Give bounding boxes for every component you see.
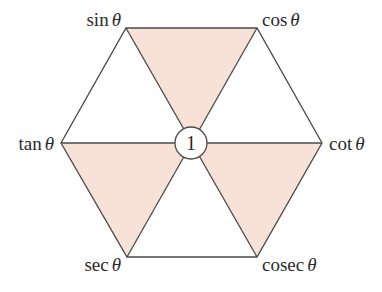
label-sin: sinθ — [86, 9, 121, 30]
shaded-triangle-bottom-left — [61, 143, 191, 257]
label-sec: secθ — [84, 254, 121, 275]
label-tan: tanθ — [18, 133, 54, 154]
shaded-triangle-top — [126, 28, 257, 143]
center-label: 1 — [186, 132, 196, 154]
shaded-triangle-bottom-right — [191, 143, 322, 257]
trig-hexagon-diagram: 1 sinθ cosθ cotθ cosecθ secθ tanθ — [0, 0, 382, 292]
label-cosec: cosecθ — [262, 254, 317, 275]
label-cot: cotθ — [329, 133, 365, 154]
label-cos: cosθ — [262, 9, 300, 30]
